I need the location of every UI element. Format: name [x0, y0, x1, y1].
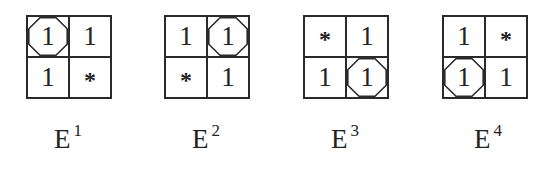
- grid-cell: 1: [305, 57, 346, 97]
- cell-value: 1: [83, 23, 97, 50]
- label-superscript: 2: [212, 121, 221, 140]
- cell-value: *: [319, 27, 331, 51]
- cell-value: 1: [179, 23, 193, 50]
- cell-value: 1: [499, 64, 513, 91]
- cell-value: 1: [221, 23, 235, 50]
- cell-value: 1: [41, 23, 55, 50]
- label-base: E: [331, 124, 348, 154]
- grid-cell: *: [485, 17, 526, 57]
- cell-value: 1: [457, 23, 471, 50]
- grid-cell: 1: [207, 57, 248, 97]
- cell-value: 1: [360, 23, 374, 50]
- grid-cell: 1: [444, 57, 485, 97]
- label-base: E: [474, 124, 491, 154]
- cell-value: 1: [41, 64, 55, 91]
- panel-e2: 1 1 * 1 E2: [138, 0, 268, 174]
- panel-e4: 1 * 1 1 E4: [416, 0, 546, 174]
- grid-cell: 1: [346, 57, 387, 97]
- karnaugh-grid: 1 * 1 1: [442, 15, 528, 99]
- panel-label: E3: [331, 126, 359, 153]
- grid-cell: *: [69, 57, 110, 97]
- cell-value: *: [500, 27, 512, 51]
- grid-cell: 1: [485, 57, 526, 97]
- grid-cell: 1: [207, 17, 248, 57]
- grid-cell: 1: [69, 17, 110, 57]
- cell-value: 1: [318, 64, 332, 91]
- cell-value: 1: [360, 64, 374, 91]
- panel-e3: * 1 1 1 E3: [277, 0, 407, 174]
- panel-label: E2: [192, 126, 220, 153]
- label-superscript: 1: [74, 121, 83, 140]
- grid-cell: *: [305, 17, 346, 57]
- cell-value: 1: [221, 64, 235, 91]
- cell-value: *: [84, 68, 96, 92]
- panel-label: E4: [474, 126, 502, 153]
- grid-cell: 1: [28, 57, 69, 97]
- karnaugh-grid: 1 1 1 *: [26, 15, 112, 99]
- label-base: E: [192, 124, 209, 154]
- cell-value: 1: [457, 64, 471, 91]
- karnaugh-grid: 1 1 * 1: [164, 15, 250, 99]
- panel-label: E1: [54, 126, 82, 153]
- label-superscript: 3: [351, 121, 360, 140]
- grid-cell: 1: [166, 17, 207, 57]
- grid-cell: 1: [346, 17, 387, 57]
- panel-e1: 1 1 1 * E1: [0, 0, 130, 174]
- label-superscript: 4: [494, 121, 503, 140]
- label-base: E: [54, 124, 71, 154]
- grid-cell: 1: [444, 17, 485, 57]
- grid-cell: 1: [28, 17, 69, 57]
- karnaugh-grid: * 1 1 1: [303, 15, 389, 99]
- cell-value: *: [180, 68, 192, 92]
- grid-cell: *: [166, 57, 207, 97]
